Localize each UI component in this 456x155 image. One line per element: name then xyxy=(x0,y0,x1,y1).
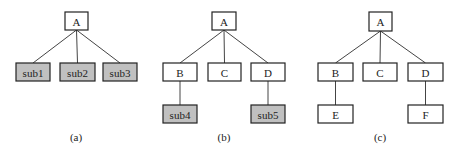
node-label: sub4 xyxy=(170,109,191,121)
edge-A-B xyxy=(180,30,224,63)
node-f: F xyxy=(408,105,443,123)
node-label: A xyxy=(377,16,385,28)
node-sub2: sub2 xyxy=(60,63,95,81)
node-c: C xyxy=(208,63,241,81)
node-sub5: sub5 xyxy=(251,105,285,123)
tree-diagrams-canvas: Asub1sub2sub3(a)ABCDsub4sub5(b)ABCDEF(c) xyxy=(0,0,456,155)
node-label: sub5 xyxy=(258,109,279,121)
node-c: C xyxy=(363,63,397,81)
edge-A-C xyxy=(224,30,225,63)
node-label: E xyxy=(332,109,339,121)
edge-A-D xyxy=(381,31,426,63)
node-b: B xyxy=(318,63,353,81)
tree-diagram-a: Asub1sub2sub3(a) xyxy=(16,12,137,144)
node-label: sub1 xyxy=(23,67,44,79)
node-b: B xyxy=(163,63,197,81)
node-label: sub2 xyxy=(67,67,88,79)
node-sub4: sub4 xyxy=(163,105,197,123)
node-a: A xyxy=(65,12,88,30)
node-e: E xyxy=(318,105,353,123)
node-label: D xyxy=(264,67,272,79)
node-label: A xyxy=(220,16,228,28)
diagram-caption: (a) xyxy=(70,131,83,144)
diagram-caption: (b) xyxy=(218,131,231,144)
edge-A-C xyxy=(380,31,381,63)
node-d: D xyxy=(408,63,443,81)
edge-A-B xyxy=(336,31,381,63)
tree-diagram-b: ABCDsub4sub5(b) xyxy=(163,12,285,144)
edge-A-D xyxy=(224,30,268,63)
edge-A-sub2 xyxy=(77,30,78,63)
edge-A-sub1 xyxy=(33,30,77,63)
node-label: D xyxy=(422,67,430,79)
tree-diagram-c: ABCDEF(c) xyxy=(318,12,443,144)
node-label: C xyxy=(376,67,383,79)
node-label: B xyxy=(332,67,339,79)
node-a: A xyxy=(369,12,392,31)
node-label: C xyxy=(221,67,228,79)
node-d: D xyxy=(251,63,285,81)
diagram-caption: (c) xyxy=(374,131,387,144)
node-label: A xyxy=(73,16,81,28)
edge-A-sub3 xyxy=(77,30,121,63)
node-label: sub3 xyxy=(110,67,131,79)
node-sub1: sub1 xyxy=(16,63,50,81)
node-label: B xyxy=(176,67,183,79)
node-a: A xyxy=(212,12,236,30)
node-sub3: sub3 xyxy=(103,63,137,81)
node-label: F xyxy=(422,109,428,121)
